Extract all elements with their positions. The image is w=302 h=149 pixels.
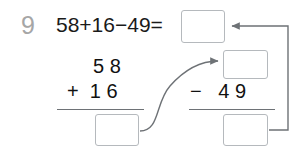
equation-expression: 58+16−49= [56,12,163,38]
addition-rule-line [57,109,144,110]
subtraction-result-box[interactable] [223,114,268,146]
subtraction-rule-line [189,109,275,110]
subtraction-operator-subtrahend: − 4 9 [190,81,246,101]
addition-addend-top: 5 8 [93,56,121,76]
addition-operator-addend: + 1 6 [67,81,118,101]
total-answer-box[interactable] [181,10,225,43]
subtraction-minuend-box[interactable] [223,50,268,79]
worksheet-problem: 9 58+16−49= 5 8 + 1 6 − 4 9 [0,0,302,149]
problem-number: 9 [15,11,41,39]
addition-sum-box[interactable] [95,114,139,146]
